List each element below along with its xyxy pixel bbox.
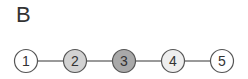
node-label: 4 [169, 53, 177, 69]
node-2: 2 [64, 50, 87, 73]
node-label: 2 [71, 53, 79, 69]
node-label: 3 [120, 53, 128, 69]
node-1: 1 [15, 50, 38, 73]
chain-graph: 12345 [0, 0, 248, 79]
node-3: 3 [113, 50, 136, 73]
node-label: 1 [22, 53, 30, 69]
node-4: 4 [162, 50, 185, 73]
node-label: 5 [218, 53, 226, 69]
node-5: 5 [211, 50, 234, 73]
